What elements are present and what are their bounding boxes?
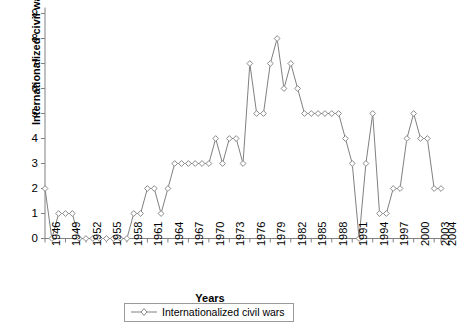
data-point-marker — [104, 236, 110, 242]
y-axis-tick-label: 6 — [20, 83, 38, 94]
x-axis-tick-label: 1997 — [398, 222, 410, 246]
data-point-marker — [302, 111, 308, 117]
data-point-marker — [315, 111, 321, 117]
data-point-marker — [377, 211, 383, 217]
data-point-marker — [295, 86, 301, 92]
y-axis-tick-label: 4 — [20, 133, 38, 144]
data-point-marker — [56, 211, 62, 217]
data-point-marker — [240, 161, 246, 167]
legend-label: Internationalized civil wars — [162, 306, 285, 318]
data-point-marker — [431, 186, 437, 192]
x-axis-tick-label: 1988 — [337, 222, 349, 246]
x-axis-tick-label: 1964 — [173, 222, 185, 246]
x-axis-tick-label: 1973 — [234, 222, 246, 246]
x-axis-tick-label: 1958 — [132, 222, 144, 246]
data-point-marker — [199, 161, 205, 167]
y-axis-tick-label: 7 — [20, 58, 38, 69]
data-point-marker — [220, 161, 226, 167]
y-axis-tick-label: 0 — [20, 233, 38, 244]
data-point-marker — [254, 111, 260, 117]
data-point-marker — [424, 136, 430, 142]
data-point-marker — [281, 86, 287, 92]
data-point-marker — [322, 111, 328, 117]
y-axis-tick-label: 1 — [20, 208, 38, 219]
data-point-marker — [138, 211, 144, 217]
data-point-marker — [179, 161, 185, 167]
data-point-marker — [185, 161, 191, 167]
x-axis-tick-label: 1991 — [357, 222, 369, 246]
y-axis-tick-label: 3 — [20, 158, 38, 169]
data-point-marker — [390, 186, 396, 192]
y-axis-tick-label: 8 — [20, 33, 38, 44]
data-point-marker — [336, 111, 342, 117]
data-point-marker — [192, 161, 198, 167]
data-point-marker — [226, 136, 232, 142]
data-line — [45, 39, 441, 239]
data-point-marker — [145, 186, 151, 192]
data-point-marker — [165, 186, 171, 192]
data-point-marker — [69, 211, 75, 217]
data-point-marker — [247, 61, 253, 67]
x-axis-tick-label: 1970 — [214, 222, 226, 246]
data-point-marker — [383, 211, 389, 217]
x-axis-tick-label: 2004 — [446, 222, 458, 246]
data-point-marker — [233, 136, 239, 142]
x-axis-tick-label: 1955 — [111, 222, 123, 246]
data-point-marker — [261, 111, 267, 117]
x-axis-tick-label: 1985 — [316, 222, 328, 246]
data-point-marker — [343, 136, 349, 142]
y-axis-tick-label: 2 — [20, 183, 38, 194]
x-axis-tick-label: 1961 — [152, 222, 164, 246]
data-point-marker — [267, 61, 273, 67]
data-point-marker — [124, 236, 130, 242]
data-point-marker — [158, 211, 164, 217]
data-point-marker — [404, 136, 410, 142]
data-point-marker — [42, 186, 48, 192]
data-point-marker — [308, 111, 314, 117]
data-point-marker — [370, 111, 376, 117]
legend-marker-icon — [131, 307, 157, 317]
data-point-marker — [83, 236, 89, 242]
data-point-marker — [288, 61, 294, 67]
data-point-marker — [131, 211, 137, 217]
x-axis-tick-label: 1967 — [193, 222, 205, 246]
data-point-marker — [206, 161, 212, 167]
data-point-marker — [411, 111, 417, 117]
y-axis-tick-label: 5 — [20, 108, 38, 119]
x-axis-tick-label: 1976 — [255, 222, 267, 246]
data-point-marker — [363, 161, 369, 167]
x-axis-tick-label: 1946 — [50, 222, 62, 246]
data-point-marker — [438, 186, 444, 192]
x-axis-tick-label: 1994 — [378, 222, 390, 246]
data-point-marker — [418, 136, 424, 142]
data-point-marker — [63, 211, 69, 217]
chart-legend: Internationalized civil wars — [124, 303, 294, 322]
data-point-marker — [274, 36, 280, 42]
x-axis-tick-label: 1979 — [275, 222, 287, 246]
x-axis-tick-label: 1949 — [70, 222, 82, 246]
x-axis-tick-label: 1982 — [296, 222, 308, 246]
x-axis-tick-label: 1952 — [91, 222, 103, 246]
y-axis-tick-label: 9 — [20, 8, 38, 19]
data-point-marker — [172, 161, 178, 167]
data-point-marker — [329, 111, 335, 117]
x-axis-tick-label: 2000 — [419, 222, 431, 246]
data-point-marker — [397, 186, 403, 192]
data-point-marker — [151, 186, 157, 192]
data-point-marker — [349, 161, 355, 167]
data-point-marker — [213, 136, 219, 142]
